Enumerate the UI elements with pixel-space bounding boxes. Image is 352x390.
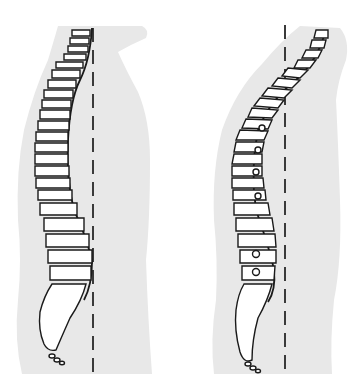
kyphotic-posture-panel [212,25,347,376]
body-silhouette-left [17,26,152,374]
normal-posture-panel [17,26,152,376]
spine-comparison-illustration [0,0,352,390]
